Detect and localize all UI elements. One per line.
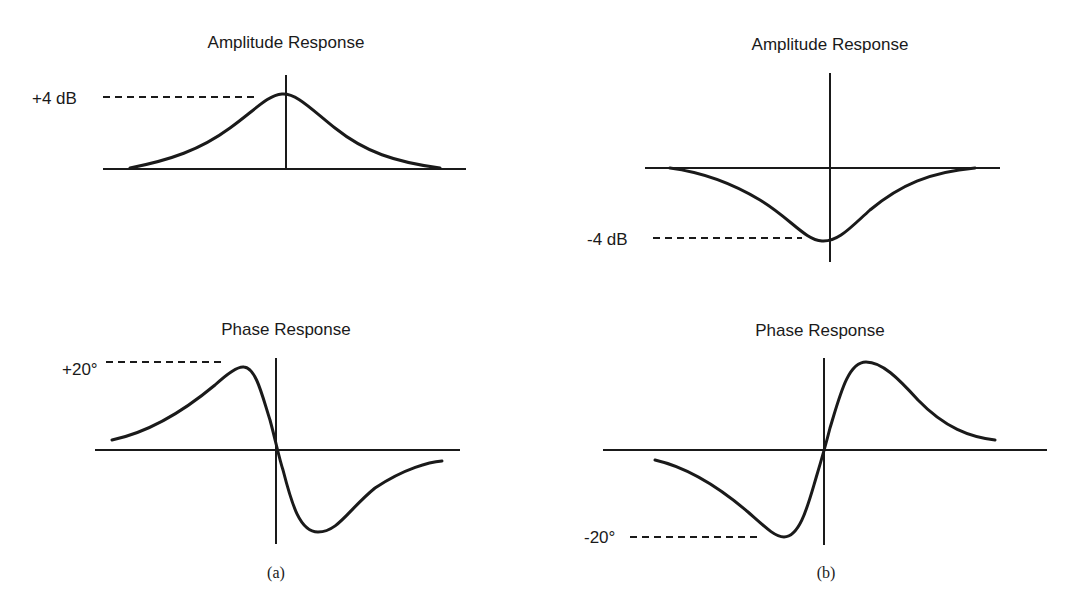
panel-a-phase-title: Phase Response [221,320,350,339]
panel-b-amplitude: Amplitude Response -4 dB [587,35,1000,262]
peak-label: +20° [62,360,98,379]
panel-b-amplitude-title: Amplitude Response [752,35,909,54]
panel-a-phase: Phase Response +20° (a) [62,320,460,582]
panel-b-caption: (b) [817,564,836,582]
peak-label: +4 dB [32,89,77,108]
amplitude-cut-curve [670,168,975,241]
panel-b-phase-title: Phase Response [755,321,884,340]
trough-label: -20° [584,528,615,547]
trough-label: -4 dB [587,230,628,249]
panel-b-phase: Phase Response -20° (b) [584,321,1047,582]
eq-response-diagram: Amplitude Response +4 dB Amplitude Respo… [0,0,1077,602]
panel-a-amplitude: Amplitude Response +4 dB [32,33,466,169]
panel-a-amplitude-title: Amplitude Response [208,33,365,52]
panel-a-caption: (a) [267,564,285,582]
